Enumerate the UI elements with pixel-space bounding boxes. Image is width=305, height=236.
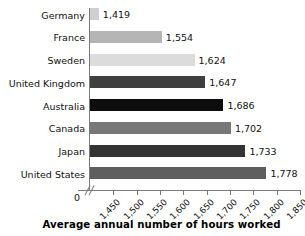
x-axis-tick xyxy=(183,190,184,195)
bar-value-label: 1,702 xyxy=(235,123,262,134)
x-axis-tick xyxy=(160,190,161,195)
bar xyxy=(90,54,195,66)
bar-value-label: 1,733 xyxy=(249,146,276,157)
category-label: Germany xyxy=(0,10,85,21)
bar-value-label: 1,554 xyxy=(166,32,193,43)
axis-break-icon xyxy=(84,185,98,197)
category-label: Japan xyxy=(0,146,85,157)
bar-value-label: 1,624 xyxy=(199,55,226,66)
bar-value-label: 1,419 xyxy=(103,9,130,20)
x-axis-origin-label: 0 xyxy=(74,192,80,203)
x-axis-tick xyxy=(113,190,114,195)
category-label: United Kingdom xyxy=(0,78,85,89)
bar-value-label: 1,686 xyxy=(227,100,254,111)
bar-value-label: 1,778 xyxy=(270,168,297,179)
category-label: Australia xyxy=(0,101,85,112)
bar-row: France1,554 xyxy=(0,31,305,54)
bar-row: Australia1,686 xyxy=(0,99,305,122)
x-axis-tick xyxy=(253,190,254,195)
bar-chart: Germany1,419France1,554Sweden1,624United… xyxy=(0,0,305,236)
bar xyxy=(90,76,205,88)
bar xyxy=(90,122,231,134)
bar xyxy=(90,99,223,111)
bar-row: Sweden1,624 xyxy=(0,54,305,77)
bar xyxy=(90,167,266,179)
bar-row: Canada1,702 xyxy=(0,122,305,145)
category-label: United States xyxy=(0,169,85,180)
bar-value-label: 1,647 xyxy=(209,77,236,88)
bar-row: United States1,778 xyxy=(0,167,305,190)
x-axis-tick xyxy=(230,190,231,195)
bar-row: Japan1,733 xyxy=(0,145,305,168)
x-axis-tick xyxy=(277,190,278,195)
bar xyxy=(90,8,99,20)
x-axis-line xyxy=(78,190,301,191)
category-label: Canada xyxy=(0,123,85,134)
x-axis-tick xyxy=(300,190,301,195)
x-axis-tick xyxy=(207,190,208,195)
bar xyxy=(90,31,162,43)
bar-row: United Kingdom1,647 xyxy=(0,76,305,99)
bar-row: Germany1,419 xyxy=(0,8,305,31)
bar xyxy=(90,145,245,157)
x-axis-tick xyxy=(137,190,138,195)
category-label: France xyxy=(0,32,85,43)
category-label: Sweden xyxy=(0,55,85,66)
x-axis-title: Average annual number of hours worked xyxy=(0,219,305,230)
